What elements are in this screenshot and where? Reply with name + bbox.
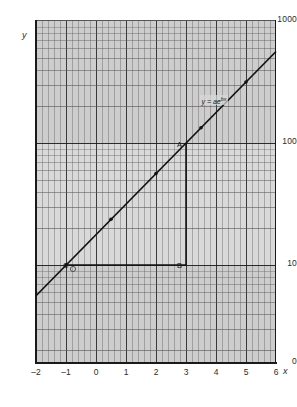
plot-border-top xyxy=(35,20,276,21)
point-b-label: B xyxy=(177,261,182,270)
log-gridline xyxy=(36,149,276,150)
y-tick-label-10: 10 xyxy=(265,258,297,268)
x-tick-label-1: 1 xyxy=(116,367,136,377)
plot-area xyxy=(36,21,276,363)
y-tick-label-100: 100 xyxy=(265,136,297,146)
decade-band-10-1 xyxy=(36,265,276,363)
x-tick-label-0: 0 xyxy=(86,367,106,377)
log-gridline xyxy=(36,207,276,208)
equation-exponent: bx xyxy=(221,96,226,102)
x-tick-label-minus2: –2 xyxy=(26,367,46,377)
x-tick-label-5: 5 xyxy=(236,367,256,377)
equation-label: y = aebx xyxy=(200,95,228,105)
point-a-label: A xyxy=(177,140,182,149)
x-tick-label-4: 4 xyxy=(206,367,226,377)
plot-border-right xyxy=(275,20,276,363)
log-gridline xyxy=(36,143,276,144)
log-gridline xyxy=(36,192,276,193)
y-tick-label-0: 0 xyxy=(265,356,297,366)
y-axis-line xyxy=(35,20,37,364)
x-axis-line xyxy=(35,362,277,364)
y-axis-name: y xyxy=(22,30,27,40)
x-axis-name: x xyxy=(283,366,288,376)
x-tick-label-3: 3 xyxy=(176,367,196,377)
log-gridline xyxy=(36,228,276,229)
log-gridline xyxy=(36,180,276,181)
equation-base: y = ae xyxy=(202,98,221,105)
log-gridline xyxy=(36,170,276,171)
semilog-chart-figure: 1000 100 10 0 y –2 –1 0 1 2 3 4 5 6 x A … xyxy=(0,0,297,407)
x-tick-label-2: 2 xyxy=(146,367,166,377)
log-gridline xyxy=(36,162,276,163)
log-gridline xyxy=(36,155,276,156)
x-tick-label-minus1: –1 xyxy=(56,367,76,377)
decade-band-1000-100 xyxy=(36,21,276,143)
y-tick-label-1000: 1000 xyxy=(265,14,297,24)
point-c-label: C xyxy=(63,261,69,270)
